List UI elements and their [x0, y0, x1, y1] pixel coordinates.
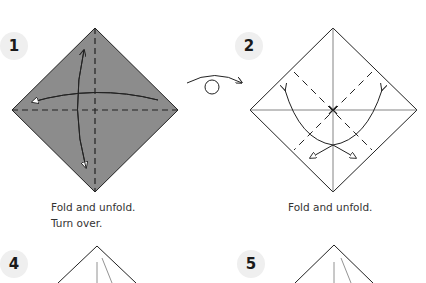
- step-2-diagram: [250, 28, 417, 192]
- step-1-caption-line-1: Fold and unfold.: [51, 199, 135, 215]
- step-5-diagram: [295, 245, 373, 283]
- diagram-canvas: [0, 0, 426, 283]
- step-number-badge-4: 4: [0, 250, 28, 278]
- turn-over-arrow-icon: [187, 76, 242, 95]
- step-1-caption-line-2: Turn over.: [51, 215, 135, 231]
- step-1-diagram: [12, 28, 178, 192]
- step-2-caption-line-1: Fold and unfold.: [288, 199, 372, 215]
- step-1-caption: Fold and unfold. Turn over.: [51, 199, 135, 231]
- step-2-caption: Fold and unfold.: [288, 199, 372, 215]
- step-number-badge-1: 1: [0, 32, 28, 60]
- step-number-badge-5: 5: [237, 250, 265, 278]
- step-4-diagram: [58, 246, 136, 283]
- step-number-badge-2: 2: [235, 32, 263, 60]
